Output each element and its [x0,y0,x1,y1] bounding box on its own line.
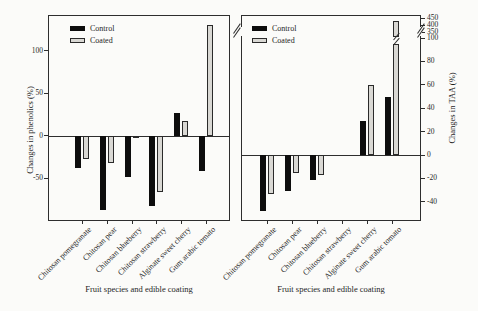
legend-label-control: Control [272,24,296,33]
x-tick [317,221,318,224]
y-tick-label: -20 [427,174,437,182]
y-tick [421,131,425,132]
bar-coated-gum-arabic-tomato [393,44,399,155]
legend-label-coated: Coated [90,36,113,45]
bar-control-gum-arabic-tomato [385,97,391,156]
bar-control-chitosan-pear [285,155,291,191]
legend-item-control: Control [252,24,296,33]
y-tick-label: 80 [427,57,435,65]
x-axis-title-right: Fruit species and edible coating [231,284,431,294]
bar-coated-chitosan-blueberry [318,155,324,175]
control-swatch-icon [70,26,85,31]
x-tick [292,221,293,224]
bar-control-alginate-sweet-cherry [360,121,366,155]
x-tick [392,221,393,224]
y-tick-label: 0 [427,151,431,159]
legend-item-control: Control [70,24,114,33]
y-tick-label: 450 [427,14,438,22]
coated-swatch-icon [252,38,267,43]
y-tick [421,84,425,85]
bar-control-chitosan-blueberry [310,155,316,180]
y-tick [421,38,425,39]
bar-coated-chitosan-pear [293,155,299,173]
y-tick-label: -40 [427,198,437,206]
x-tick [367,221,368,224]
y-tick [421,18,425,19]
y-tick [421,155,425,156]
legend-taa: Control Coated [252,24,296,45]
y-tick-label: 350 [427,28,438,36]
y-tick-label: 60 [427,81,435,89]
bar-control-chitosan-pomegranate [260,155,266,211]
bar-coated-alginate-sweet-cherry [368,85,374,155]
y-tick [421,201,425,202]
y-tick [421,178,425,179]
y-tick-label: 400 [427,21,438,29]
coated-swatch-icon [70,38,85,43]
legend-label-control: Control [90,24,114,33]
x-tick [267,221,268,224]
taa-chart: -40-20020406080100350400450Chitosan pome… [0,0,478,311]
x-axis-title-left: Fruit species and edible coating [39,284,239,294]
y-tick [421,108,425,109]
figure-dual-bar-chart: -50050100Chitosan pomegranateChitosan pe… [0,0,478,311]
x-tick-label: Gum arabic tomato [353,225,403,275]
legend-item-coated: Coated [252,36,296,45]
y-axis-title-phenolics: Changes in phenolics (%) [25,27,35,233]
y-tick-label: 20 [427,128,435,136]
bar-coated-chitosan-pomegranate [268,155,274,194]
x-tick [342,221,343,224]
legend-item-coated: Coated [70,36,114,45]
y-tick [421,61,425,62]
legend-phenolics: Control Coated [70,24,114,45]
y-tick-label: 40 [427,104,435,112]
legend-label-coated: Coated [272,36,295,45]
y-axis-title-taa: Changes in TAA (%) [447,5,457,211]
control-swatch-icon [252,26,267,31]
